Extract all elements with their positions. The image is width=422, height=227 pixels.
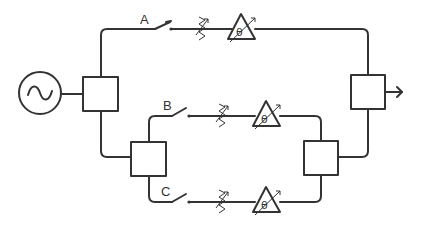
wire-c-out — [280, 175, 321, 202]
schematic-diagram: A θ B θ — [0, 0, 422, 227]
wire-a-out — [255, 29, 368, 75]
wire-a-in — [101, 29, 155, 77]
switch-b-icon — [172, 108, 191, 118]
branch-a-label: A — [140, 12, 149, 27]
splitter-1 — [83, 77, 118, 111]
phase-shifter-a-icon: θ — [228, 14, 255, 42]
phase-shifter-c-icon: θ — [253, 187, 280, 215]
switch-c-icon — [172, 194, 191, 204]
wire-combiner-2-1 — [338, 109, 368, 157]
phase-shifter-b-icon: θ — [253, 101, 280, 129]
output-arrow-icon — [385, 87, 402, 97]
wire-b-in — [149, 116, 172, 142]
combiner-1 — [351, 75, 385, 109]
splitter-2 — [131, 142, 166, 176]
ac-source-icon — [19, 72, 61, 114]
combiner-2 — [304, 141, 338, 175]
branch-b-label: B — [163, 98, 172, 113]
branch-c-label: C — [161, 184, 170, 199]
wire-b-out — [280, 116, 321, 141]
wire-split-1-2 — [101, 111, 131, 157]
switch-a-icon — [155, 21, 173, 31]
